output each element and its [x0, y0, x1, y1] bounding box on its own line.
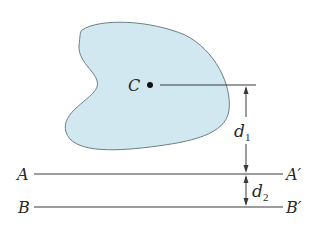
- axis-b-start-label: B: [17, 198, 30, 217]
- d1-label: d: [234, 121, 245, 141]
- axis-b-end-label: B′: [285, 198, 302, 217]
- axis-a-end-label: A′: [284, 165, 302, 184]
- centroid-dot: [147, 82, 153, 88]
- diagram-canvas: C d 1 d 2 A A′ B B′: [0, 0, 329, 239]
- d1-arrowhead-down: [244, 165, 249, 173]
- d2-arrowhead-down: [244, 198, 249, 206]
- d2-subscript: 2: [263, 191, 269, 203]
- d1-subscript: 1: [245, 131, 251, 143]
- axis-a-start-label: A: [15, 165, 29, 184]
- d2-arrowhead-up: [244, 175, 249, 183]
- centroid-label: C: [128, 76, 140, 95]
- d1-arrowhead-up: [244, 86, 249, 94]
- d2-label: d: [252, 181, 263, 201]
